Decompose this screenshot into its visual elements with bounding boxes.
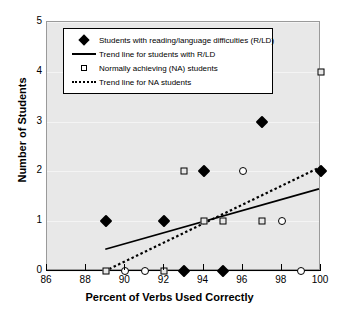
data-point-diamond (197, 165, 210, 178)
legend-item: Normally achieving (NA) students (69, 61, 267, 75)
x-axis-title: Percent of Verbs Used Correctly (0, 291, 339, 303)
x-tick-mark-94 (203, 264, 204, 270)
data-point-diamond (256, 115, 269, 128)
data-point-diamond (158, 215, 171, 228)
dotted-line-key-icon-glyph (72, 81, 96, 83)
x-tick-mark-88 (85, 264, 86, 270)
x-tick-label-88: 88 (65, 274, 105, 285)
filled-diamond-key-icon (69, 34, 99, 46)
chart-legend: Students with reading/language difficult… (63, 28, 273, 94)
x-tick-label-92: 92 (143, 274, 183, 285)
x-tick-mark-98 (281, 264, 282, 270)
x-tick-label-94: 94 (183, 274, 223, 285)
y-tick-label-3: 3 (2, 116, 42, 126)
dotted-line-key-icon (69, 76, 99, 88)
legend-item-label: Trend line for NA students (99, 78, 191, 87)
data-point-square (220, 218, 227, 225)
x-tick-mark-100 (320, 264, 321, 270)
x-tick-mark-92 (163, 264, 164, 270)
data-point-diamond (315, 165, 328, 178)
y-tick-label-4: 4 (2, 66, 42, 76)
open-square-key-icon-glyph (81, 65, 87, 71)
legend-item-label: Students with reading/language difficult… (99, 36, 274, 45)
x-tick-label-86: 86 (26, 274, 66, 285)
y-tick-label-2: 2 (2, 165, 42, 175)
solid-line-key-icon-glyph (72, 53, 96, 55)
solid-line-key-icon (69, 48, 99, 60)
data-point-square (200, 218, 207, 225)
y-tick-label-5: 5 (2, 16, 42, 26)
filled-diamond-key-icon-glyph (78, 34, 89, 45)
open-square-key-icon (69, 62, 99, 74)
legend-item: Trend line for NA students (69, 75, 267, 89)
data-point-circle (278, 217, 286, 225)
y-axis-ticks: 012345 (0, 0, 42, 316)
x-tick-mark-96 (242, 264, 243, 270)
x-tick-label-98: 98 (261, 274, 301, 285)
legend-item: Trend line for students with R/LD (69, 47, 267, 61)
legend-item: Students with reading/language difficult… (69, 33, 267, 47)
x-tick-label-90: 90 (104, 274, 144, 285)
data-point-circle (239, 167, 247, 175)
y-tick-label-1: 1 (2, 215, 42, 225)
x-tick-mark-86 (46, 264, 47, 270)
legend-item-label: Trend line for students with R/LD (99, 50, 215, 59)
x-tick-label-96: 96 (222, 274, 262, 285)
legend-item-label: Normally achieving (NA) students (99, 64, 218, 73)
data-point-square (318, 68, 325, 75)
x-tick-mark-90 (124, 264, 125, 270)
data-point-diamond (99, 215, 112, 228)
data-point-square (259, 218, 266, 225)
scatter-chart: Number of Students 012345 86889092949698… (0, 0, 339, 316)
data-point-square (181, 168, 188, 175)
x-tick-label-100: 100 (300, 274, 339, 285)
